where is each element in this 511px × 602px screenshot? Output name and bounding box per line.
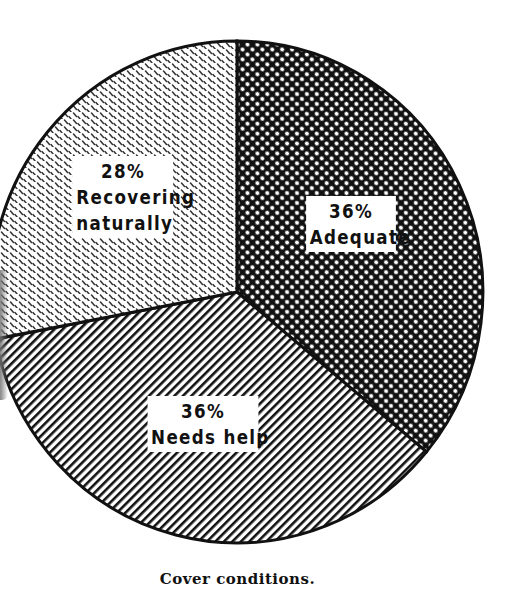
- label-recovering-line1: Recovering: [76, 184, 169, 210]
- pie-chart: [0, 0, 511, 602]
- label-recovering-pct: 28%: [76, 158, 169, 184]
- label-needs-help-pct: 36%: [151, 398, 255, 424]
- scan-shadow: [0, 270, 8, 400]
- label-adequate-pct: 36%: [310, 198, 393, 224]
- label-recovering-naturally: 28% Recovering naturally: [73, 156, 173, 238]
- figure-caption: Cover conditions.: [0, 570, 475, 588]
- label-needs-help: 36% Needs help: [148, 396, 259, 452]
- label-adequate-name: Adequate: [310, 224, 393, 250]
- label-needs-help-name: Needs help: [151, 424, 255, 450]
- label-recovering-line2: naturally: [76, 210, 169, 236]
- label-adequate: 36% Adequate: [306, 196, 396, 252]
